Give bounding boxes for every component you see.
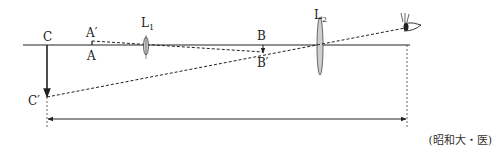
optics-diagram: [0, 0, 496, 151]
label-B: B: [257, 30, 266, 42]
label-B-prime: B′: [257, 57, 269, 69]
ray-C-to-eye: [47, 28, 405, 97]
label-C-prime: C′: [28, 95, 40, 107]
ray-A-to-B: [92, 41, 263, 52]
label-A-prime: A′: [86, 27, 97, 39]
label-C: C: [43, 31, 52, 43]
label-L2: L2: [314, 9, 327, 26]
eye-icon: [401, 13, 421, 31]
label-L2-main: L: [314, 8, 322, 22]
label-L1: L1: [141, 17, 154, 34]
source-citation: (昭和大・医): [428, 131, 492, 147]
label-L2-sub: 2: [322, 15, 327, 24]
label-L1-sub: 1: [149, 23, 154, 32]
label-A: A: [87, 50, 96, 62]
label-L1-main: L: [141, 16, 149, 30]
